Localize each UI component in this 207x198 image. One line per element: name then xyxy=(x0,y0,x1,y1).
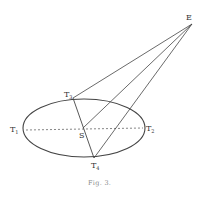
label-t2: T2 xyxy=(146,124,155,134)
label-t1: T1 xyxy=(10,125,19,135)
label-s: S xyxy=(79,131,84,140)
line-e-t4 xyxy=(94,24,192,158)
figure-caption: Fig. 3. xyxy=(88,179,111,187)
line-e-t3 xyxy=(73,24,192,98)
line-e-s xyxy=(83,24,192,128)
orbit-diagram: E T3 T1 T2 S T4 Fig. 3. xyxy=(0,0,207,198)
label-e: E xyxy=(186,13,192,22)
label-t3: T3 xyxy=(64,90,73,100)
label-t4: T4 xyxy=(91,161,100,171)
